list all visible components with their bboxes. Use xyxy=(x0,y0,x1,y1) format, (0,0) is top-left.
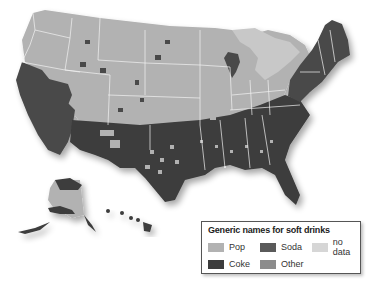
alaska xyxy=(18,178,96,234)
legend-label: Soda xyxy=(281,242,302,252)
legend-item-coke: Coke xyxy=(208,259,260,269)
contiguous-us xyxy=(16,10,350,205)
coke-swatch xyxy=(208,260,224,269)
legend-label: Pop xyxy=(229,242,245,252)
legend-items: Pop Soda no data Coke Other xyxy=(208,237,354,269)
other-swatch xyxy=(260,260,276,269)
legend-label: Coke xyxy=(229,259,250,269)
legend-label: no data xyxy=(333,237,362,257)
legend-item-no-data: no data xyxy=(312,237,362,257)
soda-swatch xyxy=(260,243,276,252)
no-data-swatch xyxy=(312,243,328,252)
legend-item-pop: Pop xyxy=(208,237,260,257)
legend: Generic names for soft drinks Pop Soda n… xyxy=(201,221,361,274)
legend-item-other: Other xyxy=(260,259,312,269)
pop-swatch xyxy=(208,243,224,252)
legend-title: Generic names for soft drinks xyxy=(208,225,354,235)
legend-label: Other xyxy=(281,259,304,269)
legend-item-soda: Soda xyxy=(260,237,312,257)
hawaii xyxy=(106,209,152,232)
